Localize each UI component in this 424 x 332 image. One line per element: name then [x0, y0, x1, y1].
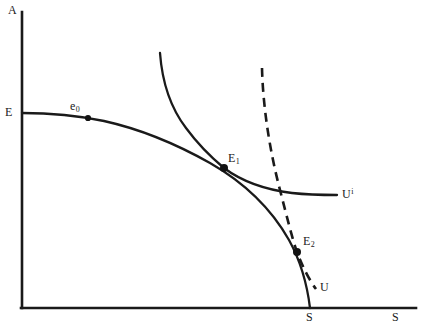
indifference-curve-ui-label-sup: i	[351, 187, 354, 196]
indifference-curve-u-dashed	[262, 68, 316, 289]
ppf-curve	[22, 113, 310, 308]
point-e1-dot	[220, 164, 228, 172]
indifference-curve-ui-label-base: U	[342, 187, 351, 201]
point-e0-label-sub: 0	[75, 105, 80, 114]
x-intercept-label: S	[306, 311, 313, 323]
y-intercept-label: E	[5, 106, 12, 118]
y-axis-label: A	[8, 4, 17, 16]
x-axis-label: S	[392, 311, 399, 323]
indifference-curve-ui	[160, 53, 337, 195]
point-e0-label: e0	[70, 100, 80, 114]
point-e1-label: E1	[228, 152, 240, 166]
point-e2-label: E2	[303, 235, 315, 249]
point-e0-dot	[85, 115, 91, 121]
point-e2-dot	[293, 248, 301, 256]
economics-ppf-diagram: A E e0 E1 E2 Ui U S S	[0, 0, 424, 332]
point-e2-label-sub: 2	[310, 240, 315, 249]
diagram-canvas	[0, 0, 424, 332]
point-e1-label-sub: 1	[235, 157, 240, 166]
indifference-curve-ui-label: Ui	[342, 188, 353, 200]
indifference-curve-u-label: U	[320, 281, 329, 293]
